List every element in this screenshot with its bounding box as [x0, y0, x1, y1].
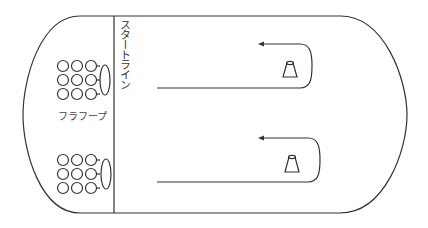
hula-hoop-bottom	[101, 159, 111, 189]
arrow-left-icon	[258, 136, 264, 141]
team-bottom-children	[58, 155, 101, 194]
cone-bottom	[285, 155, 299, 172]
start-line-label: スタートライン	[116, 19, 130, 89]
hula-hoop-label: フラフープ	[58, 108, 107, 123]
cone-top	[283, 61, 297, 77]
hula-hoop-top	[100, 65, 110, 95]
team-top-children	[58, 61, 101, 100]
arrow-left-icon	[258, 42, 264, 47]
lane-top-path	[157, 44, 312, 88]
